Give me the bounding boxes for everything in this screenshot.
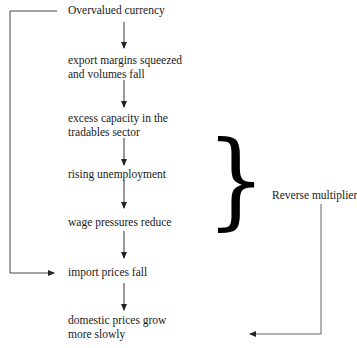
node-rising-unemployment: rising unemployment xyxy=(68,168,166,182)
node-export-margins: export margins squeezed and volumes fall xyxy=(68,54,182,81)
node-excess-capacity: excess capacity in the tradables sector xyxy=(68,112,168,139)
node-text-line: Overvalued currency xyxy=(68,4,165,18)
node-text-line: domestic prices grow xyxy=(68,314,166,328)
node-overvalued-currency: Overvalued currency xyxy=(68,4,165,18)
reverse-multiplier-label: Reverse multiplier xyxy=(272,189,357,202)
node-text-line: export margins squeezed xyxy=(68,54,182,68)
node-text-line: rising unemployment xyxy=(68,168,166,182)
node-import-prices: import prices fall xyxy=(68,266,147,280)
node-text-line: wage pressures reduce xyxy=(68,216,171,230)
node-text-line: and volumes fall xyxy=(68,68,182,82)
node-text-line: import prices fall xyxy=(68,266,147,280)
connector-overvalued-to-import xyxy=(10,11,57,273)
curly-brace-icon: } xyxy=(206,128,266,232)
node-text-line: excess capacity in the xyxy=(68,112,168,126)
node-text-line: tradables sector xyxy=(68,126,168,140)
node-domestic-prices: domestic prices grow more slowly xyxy=(68,314,166,341)
node-text-line: more slowly xyxy=(68,328,166,342)
node-wage-pressures: wage pressures reduce xyxy=(68,216,171,230)
